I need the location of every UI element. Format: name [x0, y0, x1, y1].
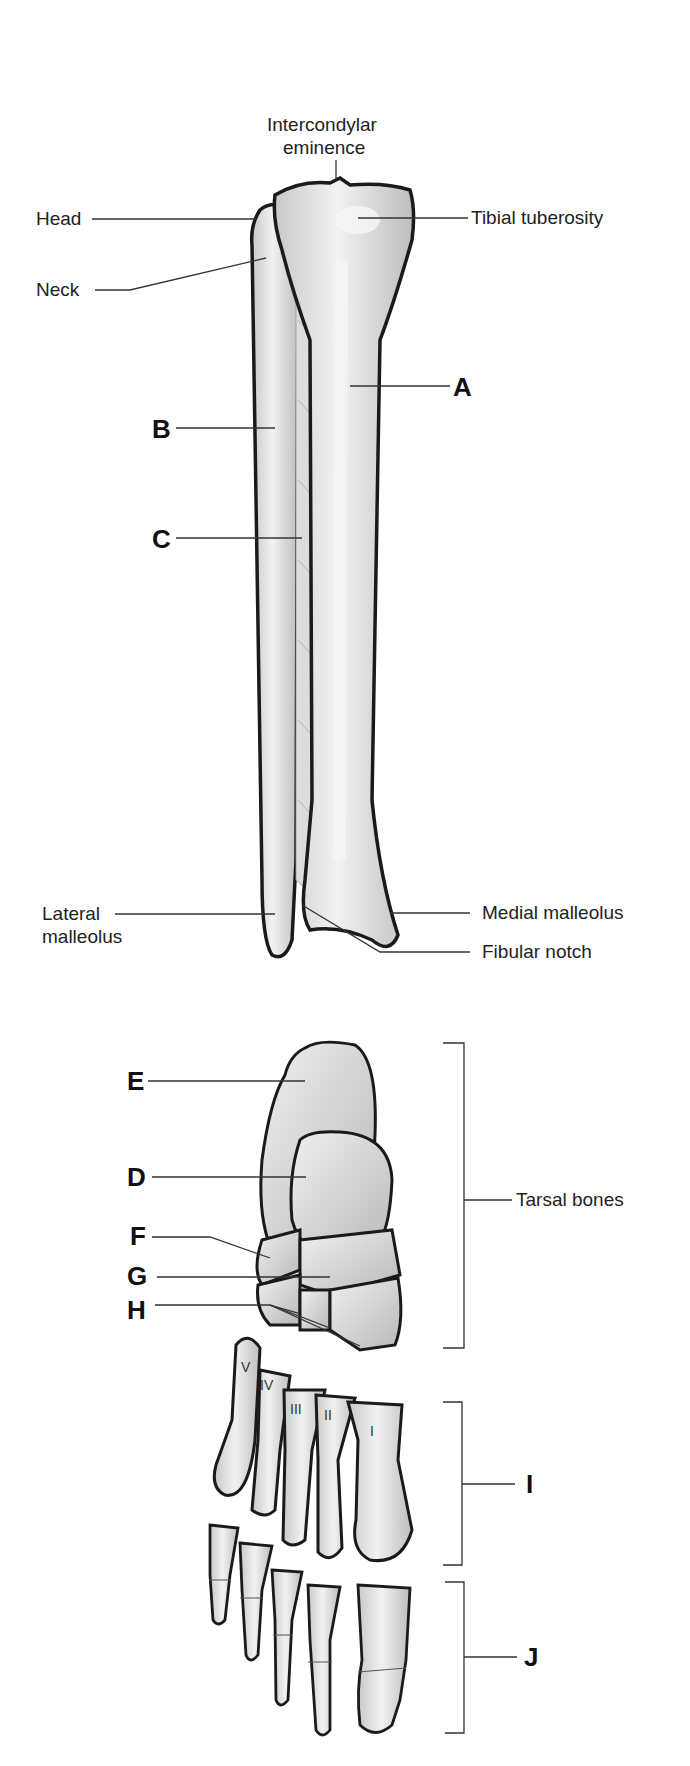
letter-c: C [152, 525, 171, 553]
label-lateral-malleolus-line1: Lateral [42, 903, 100, 925]
label-medial-malleolus: Medial malleolus [482, 902, 624, 924]
letter-b: B [152, 415, 171, 443]
numeral-i: I [370, 1423, 374, 1439]
tarsal-bones [257, 1042, 401, 1350]
numeral-v: V [241, 1359, 251, 1375]
label-tarsal-bones: Tarsal bones [516, 1189, 624, 1211]
numeral-iii: III [290, 1401, 302, 1417]
letter-a: A [453, 373, 472, 401]
letter-h: H [127, 1296, 146, 1324]
label-intercondylar-line2: eminence [283, 137, 365, 159]
anatomy-illustration: V IV III II I [0, 0, 690, 1766]
label-fibular-notch: Fibular notch [482, 941, 592, 963]
letter-g: G [127, 1262, 147, 1290]
label-head: Head [36, 208, 81, 230]
numeral-ii: II [324, 1407, 332, 1423]
fibula [252, 205, 299, 957]
letter-j: J [524, 1643, 538, 1671]
letter-e: E [127, 1067, 144, 1095]
label-lateral-malleolus-line2: malleolus [42, 926, 122, 948]
letter-d: D [127, 1163, 146, 1191]
letter-i: I [526, 1470, 533, 1498]
numeral-iv: IV [260, 1377, 274, 1393]
label-tibial-tuberosity: Tibial tuberosity [471, 207, 603, 229]
label-intercondylar-line1: Intercondylar [267, 114, 377, 136]
label-neck: Neck [36, 279, 79, 301]
letter-f: F [130, 1222, 146, 1250]
